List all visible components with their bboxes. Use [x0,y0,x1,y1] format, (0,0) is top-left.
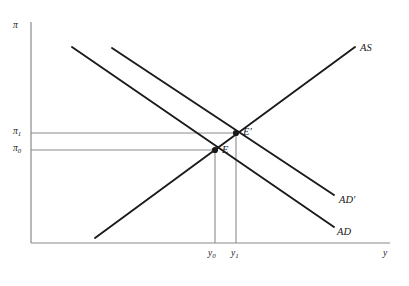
point-label-e: E [222,145,228,156]
ad-prime-curve [112,48,334,195]
y-tick-label-pi1: π1 [13,127,21,138]
x-axis-label: y [383,249,387,259]
diagram-canvas [0,0,409,286]
as-curve [95,47,355,238]
as-curve-label: AS [360,43,372,54]
ad-prime-curve-label: AD′ [339,195,355,206]
ad-as-diagram: π y π1 π0 y0 y1 AS AD′ AD E E′ [0,0,409,286]
ad-prime-label-base: AD [339,194,353,205]
x-tick-label-y0: y0 [208,249,216,260]
y-tick-label-pi0: π0 [13,144,21,155]
ad-curve-label: AD [337,227,351,238]
equilibrium-point-e-prime [233,130,239,136]
x-tick-y1-subscript: 1 [235,252,238,259]
y-tick-pi1-subscript: 1 [18,130,21,137]
ad-curve [72,47,334,227]
equilibrium-point-e [212,147,218,153]
y-axis-label: π [13,21,18,31]
x-tick-label-y1: y1 [231,249,239,260]
y-tick-pi0-subscript: 0 [18,147,21,154]
point-e-base: E [222,144,228,155]
x-tick-y0-subscript: 0 [212,252,215,259]
ad-prime-label-mark: ′ [353,194,355,205]
point-e-prime-mark: ′ [249,126,251,137]
point-label-e-prime: E′ [243,127,252,138]
